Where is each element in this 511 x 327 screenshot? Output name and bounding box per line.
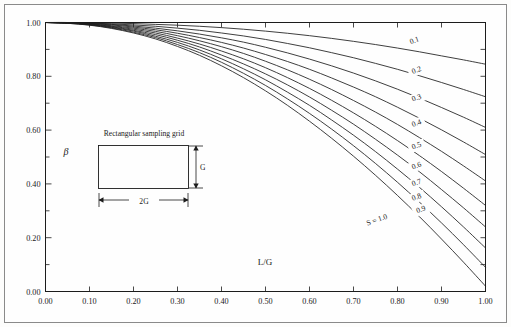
x-tick-label: 1.00 (478, 297, 492, 306)
figure-root: 0.000.200.400.600.801.00 0.000.100.200.3… (0, 0, 511, 327)
x-tick-label: 0.40 (214, 297, 228, 306)
x-tick-label: 0.00 (38, 297, 52, 306)
y-tick-label: 0.80 (26, 72, 40, 81)
chart-canvas: 0.000.200.400.600.801.00 0.000.100.200.3… (0, 0, 511, 327)
inset-title: Rectangular sampling grid (104, 129, 185, 138)
y-tick-label: 0.60 (26, 126, 40, 135)
x-tick-label: 0.70 (346, 297, 360, 306)
inset-height-label: G (200, 163, 206, 172)
y-axis-title: β (63, 146, 69, 157)
inset-sampling-grid: Rectangular sampling grid G 2G (99, 129, 207, 207)
inset-rectangle (99, 146, 189, 189)
y-axis-minor-ticks (46, 23, 486, 292)
curve-labels: 0.10.20.30.40.50.60.70.80.9S = 1.0 (359, 33, 430, 231)
x-axis-tick-labels: 0.000.100.200.300.400.500.600.700.800.90… (38, 297, 492, 306)
x-tick-label: 0.10 (82, 297, 96, 306)
x-tick-label: 0.60 (302, 297, 316, 306)
data-curves (46, 22, 486, 286)
x-tick-label: 0.80 (390, 297, 404, 306)
y-tick-label: 0.00 (26, 288, 40, 297)
x-axis-major-ticks (46, 23, 486, 292)
x-tick-label: 0.20 (126, 297, 140, 306)
y-axis-tick-labels: 0.000.200.400.600.801.00 (26, 19, 40, 297)
plot-area-border (46, 23, 486, 292)
x-tick-label: 0.30 (170, 297, 184, 306)
x-tick-label: 0.50 (258, 297, 272, 306)
curve-1-0 (46, 23, 486, 287)
y-tick-label: 1.00 (26, 19, 40, 28)
inset-width-label: 2G (139, 197, 149, 206)
y-tick-label: 0.40 (26, 180, 40, 189)
x-tick-label: 0.90 (434, 297, 448, 306)
y-tick-label: 0.20 (26, 234, 40, 243)
x-axis-title: L/G (258, 257, 273, 267)
